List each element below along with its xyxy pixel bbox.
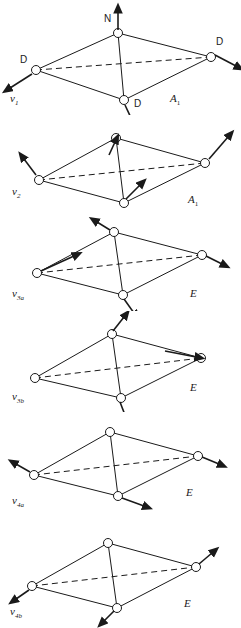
mode-diagram-nu4b — [0, 515, 241, 628]
arrow-deuterium-left — [24, 159, 36, 175]
atom-deuterium-left — [31, 374, 40, 383]
arrow-nitrogen — [113, 317, 124, 331]
atom-deuterium-right — [197, 354, 206, 363]
arrow-nitrogen — [97, 222, 110, 230]
atom-deuterium-front — [120, 96, 129, 105]
arrow-deuterium-right — [199, 553, 212, 564]
atom-deuterium-right — [207, 53, 216, 62]
atom-deuterium-left — [28, 582, 37, 591]
atom-deuterium-right — [201, 159, 210, 168]
atoms — [28, 539, 201, 613]
atom-deuterium-right — [194, 452, 203, 461]
mode-label-nu4b: ν4b — [10, 605, 22, 620]
label-deuterium-left: D — [20, 54, 27, 65]
mode-diagram-nu4a — [0, 412, 241, 515]
mode-label-nu3a: ν3a — [12, 287, 24, 302]
arrow-deuterium-right — [202, 457, 219, 464]
arrow-deuterium-left — [16, 464, 30, 472]
molecule-skeleton — [35, 334, 201, 398]
symmetry-label-nu4b: E — [184, 597, 191, 612]
molecule-skeleton — [36, 33, 211, 100]
perspective-dashed-edge — [34, 456, 198, 475]
label-deuterium-right: D — [216, 36, 223, 47]
atoms — [30, 428, 203, 501]
arrow-deuterium-left — [16, 590, 29, 599]
mode-diagram-nu3a — [0, 215, 241, 311]
atom-deuterium-left — [35, 176, 44, 185]
atom-nitrogen — [104, 539, 113, 548]
label-deuterium-front: D — [134, 98, 141, 109]
symmetry-label-nu1: A1 — [170, 92, 180, 107]
arrow-deuterium-front — [125, 105, 132, 115]
mode-label-nu1: ν1 — [10, 92, 18, 107]
atom-nitrogen — [108, 330, 117, 339]
atom-deuterium-front — [119, 291, 128, 300]
arrow-deuterium-left — [10, 74, 32, 88]
mode-label-nu3b: ν3b — [12, 390, 24, 405]
vibration-panel-nu4b: ν4b E — [0, 515, 241, 628]
symmetry-label-nu4a: E — [186, 486, 193, 501]
atom-deuterium-front — [120, 199, 129, 208]
arrow-deuterium-front — [124, 299, 134, 311]
mode-label-nu2: ν2 — [12, 185, 20, 200]
vibration-panel-nu4a: ν4a E — [0, 412, 241, 515]
atom-deuterium-left — [33, 269, 42, 278]
arrow-deuterium-front — [122, 498, 144, 506]
mode-diagram-nu3b — [0, 311, 241, 412]
arrow-deuterium-front — [104, 611, 114, 621]
arrow-deuterium-front — [120, 402, 125, 412]
vibration-panel-nu1: N D D D ν1 A1 — [0, 0, 241, 115]
atom-deuterium-front — [114, 492, 123, 501]
label-nitrogen: N — [104, 13, 111, 24]
symmetry-label-nu3a: E — [190, 287, 197, 302]
arrow-deuterium-right — [209, 137, 228, 159]
perspective-dashed-edge — [39, 163, 205, 180]
molecule-skeleton — [37, 232, 202, 295]
atom-nitrogen — [110, 228, 119, 237]
vibration-panel-nu2: ν2 A1 — [0, 115, 241, 215]
mode-diagram-nu1: N D D D — [0, 0, 241, 115]
mode-label-nu4a: ν4a — [12, 494, 24, 509]
atom-deuterium-right — [198, 251, 207, 260]
perspective-dashed-edge — [36, 57, 211, 70]
displacement-arrows — [24, 137, 228, 199]
atom-deuterium-left — [32, 66, 41, 75]
symmetry-label-nu2: A1 — [188, 193, 198, 208]
mode-diagram-nu2 — [0, 115, 241, 215]
symmetry-label-nu3b: E — [190, 381, 197, 396]
arrow-nitrogen-down — [109, 142, 115, 155]
vibration-panel-nu3a: ν3a E — [0, 215, 241, 311]
arrow-deuterium-left — [41, 256, 74, 271]
atoms — [35, 134, 210, 208]
vibration-panel-nu3b: ν3b E — [0, 311, 241, 412]
arrow-deuterium-right — [215, 55, 236, 66]
atom-deuterium-left — [30, 471, 39, 480]
atom-nitrogen — [112, 134, 121, 143]
atom-deuterium-front — [117, 394, 126, 403]
arrow-deuterium-front — [126, 185, 140, 199]
arrow-deuterium-right — [165, 351, 196, 357]
molecule-skeleton — [34, 432, 198, 496]
molecule-skeleton — [32, 543, 196, 608]
molecule-skeleton — [39, 138, 205, 203]
atom-nitrogen — [106, 428, 115, 437]
arrow-deuterium-right — [206, 256, 222, 264]
